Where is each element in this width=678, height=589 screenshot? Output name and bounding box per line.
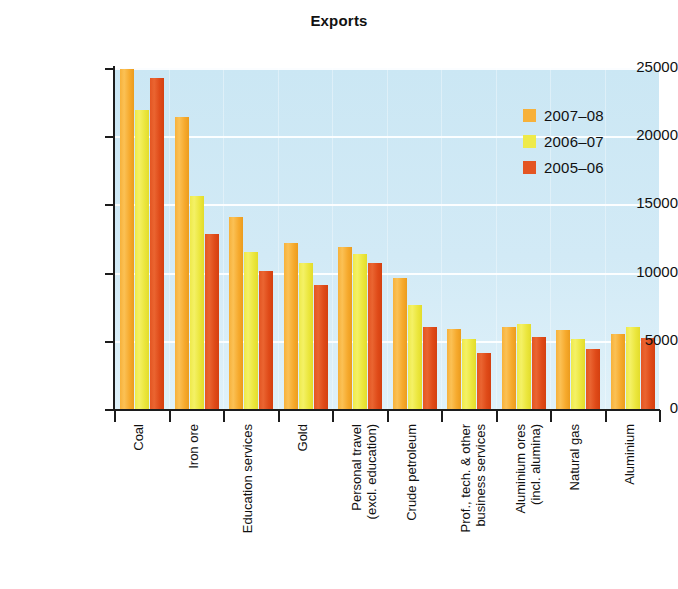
x-axis-tick — [387, 410, 389, 422]
legend-label: 2005–06 — [544, 159, 604, 176]
bar — [477, 353, 491, 409]
bar — [408, 305, 422, 409]
y-axis-tick-label: 15000 — [582, 194, 678, 211]
x-axis-tick — [114, 410, 116, 422]
x-axis-tick — [278, 410, 280, 422]
bar — [423, 327, 437, 409]
x-category-label-line: Iron ore — [186, 424, 201, 586]
y-axis-tick-label: 25000 — [582, 58, 678, 75]
legend-item[interactable]: 2005–06 — [523, 159, 604, 176]
x-category-label-line: Prof., tech. & other — [458, 424, 473, 586]
bar — [517, 324, 531, 409]
chart-title: Exports — [0, 12, 678, 29]
x-category-label-line: Coal — [131, 424, 146, 586]
bar — [284, 243, 298, 409]
legend-label: 2006–07 — [544, 133, 604, 150]
bar — [338, 247, 352, 409]
bar — [190, 196, 204, 409]
x-axis-tick — [332, 410, 334, 422]
y-axis-tick — [105, 136, 114, 138]
bar — [229, 217, 243, 409]
bar — [314, 285, 328, 409]
x-axis-tick — [441, 410, 443, 422]
y-axis-tick — [105, 68, 114, 70]
bar — [556, 330, 570, 409]
x-category-label-line: Education services — [240, 424, 255, 586]
bar — [462, 339, 476, 409]
y-axis-tick — [105, 409, 114, 411]
x-category-label-line: (excl. education) — [364, 424, 379, 586]
y-axis-tick — [105, 204, 114, 206]
bar — [368, 263, 382, 409]
bar — [532, 337, 546, 409]
bar-group — [169, 68, 224, 409]
x-category-label-line: business services — [473, 424, 488, 586]
legend-item[interactable]: 2007–08 — [523, 107, 604, 124]
x-axis-tick — [659, 410, 661, 422]
x-category-label-line: (incl. alumina) — [528, 424, 543, 586]
y-axis-tick-label: 0 — [582, 399, 678, 416]
x-category-label-line: Natural gas — [567, 424, 582, 586]
bar-group — [278, 68, 333, 409]
bar — [135, 110, 149, 409]
bar — [353, 254, 367, 409]
x-axis-tick — [605, 410, 607, 422]
bar — [502, 327, 516, 409]
x-axis-category-labels: CoalIron oreEducation servicesGoldPerson… — [114, 424, 659, 589]
y-axis-line — [113, 66, 115, 411]
bar — [299, 263, 313, 409]
bar — [175, 117, 189, 409]
bar-group — [114, 68, 169, 409]
bar — [393, 278, 407, 409]
bar — [120, 69, 134, 409]
legend-swatch-icon — [523, 109, 536, 122]
x-category-label-line: Aluminium ores — [513, 424, 528, 586]
bar-group — [223, 68, 278, 409]
y-axis-tick-label: 5000 — [582, 331, 678, 348]
legend-swatch-icon — [523, 135, 536, 148]
x-category-label-line: Crude petroleum — [404, 424, 419, 586]
x-category-label-line: Gold — [295, 424, 310, 586]
x-category-label-line: Personal travel — [349, 424, 364, 586]
exports-bar-chart: Exports A$ million 050001000015000200002… — [0, 0, 678, 589]
legend-label: 2007–08 — [544, 107, 604, 124]
bar-group — [605, 68, 660, 409]
bar-group — [441, 68, 496, 409]
bar — [447, 329, 461, 409]
y-axis-tick-label: 10000 — [582, 263, 678, 280]
x-axis-tick — [496, 410, 498, 422]
bar — [244, 252, 258, 409]
bar — [259, 271, 273, 409]
legend-swatch-icon — [523, 161, 536, 174]
bar — [150, 78, 164, 409]
legend-item[interactable]: 2006–07 — [523, 133, 604, 150]
x-axis-tick — [223, 410, 225, 422]
bar — [205, 234, 219, 409]
x-axis-tick — [550, 410, 552, 422]
bar-group — [332, 68, 387, 409]
y-axis-tick — [105, 341, 114, 343]
legend: 2007–082006–072005–06 — [523, 107, 604, 176]
x-axis-tick — [169, 410, 171, 422]
bar-group — [387, 68, 442, 409]
x-category-label-line: Aluminium — [622, 424, 637, 586]
y-axis-tick — [105, 273, 114, 275]
